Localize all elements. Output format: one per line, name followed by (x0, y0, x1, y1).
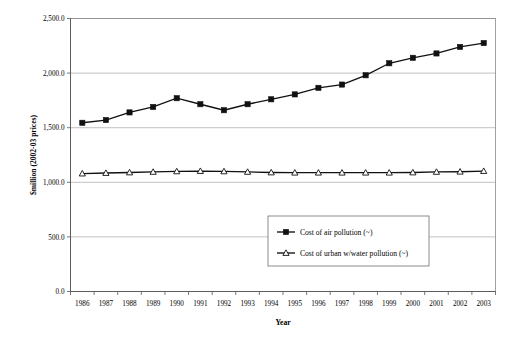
data-point-square (363, 73, 368, 78)
y-axis-title: $million (2002-03 prices) (29, 114, 38, 195)
x-axis-title: Year (275, 318, 291, 327)
x-tick-label: 2003 (477, 300, 492, 308)
x-tick-label: 1988 (122, 300, 137, 308)
legend-label: Cost of air pollution (~) (300, 228, 373, 237)
x-tick-label: 1991 (193, 300, 208, 308)
data-point-square (387, 61, 392, 66)
x-axis (71, 292, 496, 296)
data-point-square (151, 104, 156, 109)
data-point-square (221, 108, 226, 113)
x-tick-label: 1986 (75, 300, 90, 308)
y-tick-label: 2,500.0 (43, 15, 65, 23)
y-tick-label: 2,000.0 (43, 70, 65, 78)
data-series-group (79, 40, 487, 175)
y-axis (67, 19, 71, 292)
series-line (82, 43, 483, 123)
legend-marker-square (283, 229, 288, 234)
x-tick-label: 1992 (217, 300, 232, 308)
data-point-square (174, 96, 179, 101)
y-tick-label: 500.0 (48, 234, 65, 242)
y-tick-labels: 0.0500.01,000.01,500.02,000.02,500.0 (43, 15, 65, 296)
data-point-square (80, 120, 85, 125)
data-point-square (198, 102, 203, 107)
x-tick-label: 2000 (406, 300, 421, 308)
x-tick-label: 1990 (170, 300, 185, 308)
x-tick-label: 1998 (358, 300, 373, 308)
legend-box (268, 216, 429, 266)
data-point-square (457, 44, 462, 49)
data-point-square (410, 55, 415, 60)
x-tick-label: 1993 (240, 300, 255, 308)
data-point-square (292, 92, 297, 97)
data-point-square (316, 85, 321, 90)
y-tick-label: 1,500.0 (43, 124, 65, 132)
x-tick-label: 1987 (99, 300, 114, 308)
legend-label: Cost of urban w/water pollution (~) (300, 249, 409, 258)
x-tick-label: 2002 (453, 300, 468, 308)
data-point-square (339, 82, 344, 87)
data-point-square (103, 117, 108, 122)
gridlines-group (71, 19, 496, 237)
x-tick-label: 1995 (288, 300, 303, 308)
data-point-square (127, 110, 132, 115)
x-tick-label: 2001 (429, 300, 444, 308)
data-point-square (434, 51, 439, 56)
data-point-square (245, 102, 250, 107)
data-point-square (269, 97, 274, 102)
y-tick-label: 0.0 (56, 288, 65, 296)
series-line (82, 171, 483, 174)
x-tick-label: 1994 (264, 300, 279, 308)
x-tick-label: 1999 (382, 300, 397, 308)
line-chart: 0.0500.01,000.01,500.02,000.02,500.0 198… (0, 0, 521, 345)
x-tick-label: 1996 (311, 300, 326, 308)
y-tick-label: 1,000.0 (43, 179, 65, 187)
data-point-square (481, 40, 486, 45)
series-air-pollution (80, 40, 487, 125)
chart-legend: Cost of air pollution (~)Cost of urban w… (268, 216, 429, 266)
chart-container: 0.0500.01,000.01,500.02,000.02,500.0 198… (0, 0, 521, 345)
x-tick-label: 1989 (146, 300, 161, 308)
series-water-pollution (79, 168, 487, 176)
x-tick-label: 1997 (335, 300, 350, 308)
x-tick-labels: 1986198719881989199019911992199319941995… (75, 300, 491, 308)
